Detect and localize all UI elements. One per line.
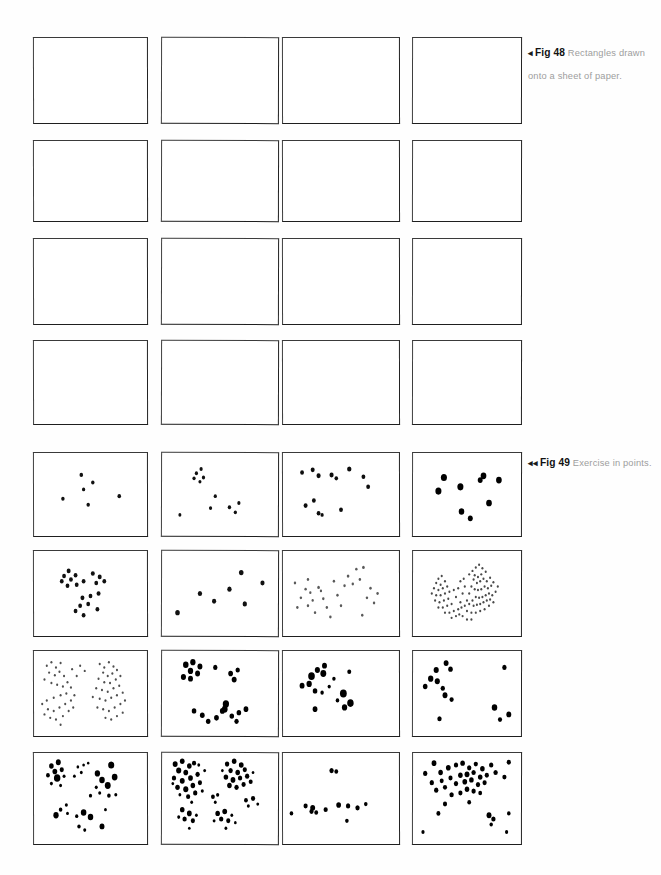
dot-field xyxy=(161,452,279,537)
rectangle-border xyxy=(412,238,522,325)
rectangle-border xyxy=(412,37,522,124)
dot-pattern-panel xyxy=(161,650,279,737)
rectangle-border xyxy=(282,140,400,222)
caption-fig-49: ◂◂Fig 49 Exercise in points. xyxy=(528,451,660,475)
rectangle-border xyxy=(161,140,279,222)
rectangle-border xyxy=(161,238,279,325)
rectangle-border xyxy=(282,340,400,425)
dot-pattern-panel xyxy=(412,650,522,737)
dot-field xyxy=(412,650,522,737)
empty-rectangle-panel xyxy=(282,340,400,425)
dot-pattern-panel xyxy=(33,550,148,637)
rectangle-border xyxy=(33,140,148,222)
rectangle-border xyxy=(33,238,148,325)
rectangle-border xyxy=(161,340,279,425)
dot-pattern-panel xyxy=(161,550,279,637)
dot-pattern-panel xyxy=(33,650,148,737)
dot-field xyxy=(161,650,279,737)
dot-pattern-panel xyxy=(282,452,400,537)
dot-field xyxy=(161,752,279,845)
rectangle-border xyxy=(282,37,400,124)
dot-field xyxy=(33,550,148,637)
caption-text: Exercise in points. xyxy=(573,458,652,468)
empty-rectangle-panel xyxy=(161,340,279,425)
dot-field xyxy=(412,550,522,637)
empty-rectangle-panel xyxy=(412,37,522,124)
dot-field xyxy=(282,550,400,637)
empty-rectangle-panel xyxy=(412,140,522,222)
rectangle-border xyxy=(33,37,148,124)
dot-field xyxy=(282,752,400,845)
dot-pattern-panel xyxy=(412,752,522,845)
dot-pattern-panel xyxy=(33,452,148,537)
rectangle-border xyxy=(282,238,400,325)
dot-pattern-panel xyxy=(161,752,279,845)
caption-marker-icon: ◂ xyxy=(528,48,533,58)
dot-field xyxy=(33,752,148,845)
empty-rectangle-panel xyxy=(412,340,522,425)
dot-field xyxy=(412,452,522,537)
dot-field xyxy=(33,452,148,537)
empty-rectangle-panel xyxy=(161,238,279,325)
dot-field xyxy=(412,752,522,845)
figure-page: ◂Fig 48 Rectangles drawn onto a sheet of… xyxy=(0,0,661,875)
rectangle-border xyxy=(412,340,522,425)
empty-rectangle-panel xyxy=(33,140,148,222)
dot-pattern-panel xyxy=(412,452,522,537)
empty-rectangle-panel xyxy=(33,37,148,124)
dot-pattern-panel xyxy=(282,752,400,845)
rectangle-border xyxy=(33,340,148,425)
empty-rectangle-panel xyxy=(282,140,400,222)
dot-pattern-panel xyxy=(161,452,279,537)
empty-rectangle-panel xyxy=(412,238,522,325)
empty-rectangle-panel xyxy=(161,140,279,222)
dot-pattern-panel xyxy=(282,550,400,637)
empty-rectangle-panel xyxy=(33,238,148,325)
dot-field xyxy=(161,550,279,637)
caption-fig-48: ◂Fig 48 Rectangles drawn onto a sheet of… xyxy=(528,41,660,88)
figure-number: Fig 48 xyxy=(535,47,565,58)
dot-field xyxy=(282,650,400,737)
figure-number: Fig 49 xyxy=(540,457,570,468)
dot-pattern-panel xyxy=(33,752,148,845)
dot-field xyxy=(282,452,400,537)
rectangle-border xyxy=(412,140,522,222)
empty-rectangle-panel xyxy=(161,37,279,124)
empty-rectangle-panel xyxy=(33,340,148,425)
empty-rectangle-panel xyxy=(282,238,400,325)
caption-marker-icon: ◂◂ xyxy=(528,458,538,468)
dot-pattern-panel xyxy=(412,550,522,637)
rectangle-border xyxy=(161,37,279,124)
dot-pattern-panel xyxy=(282,650,400,737)
dot-field xyxy=(33,650,148,737)
empty-rectangle-panel xyxy=(282,37,400,124)
